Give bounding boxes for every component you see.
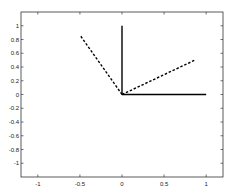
x-tick-label: 0.5 xyxy=(160,181,169,187)
chart: -1-0.500.5110.80.60.40.20-0.2-0.4-0.6-0.… xyxy=(0,0,232,191)
y-tick-label: -0.4 xyxy=(9,119,20,125)
y-tick-label: -0.2 xyxy=(9,105,20,111)
y-tick-label: -1 xyxy=(14,160,20,166)
x-tick-label: -0.5 xyxy=(75,181,86,187)
y-tick-label: 0.6 xyxy=(11,50,20,56)
y-tick-label: 0.4 xyxy=(11,64,20,70)
y-tick-label: -0.8 xyxy=(9,147,20,153)
y-tick-label: 0.2 xyxy=(11,78,20,84)
x-tick-label: 0 xyxy=(120,181,124,187)
y-tick-label: 1 xyxy=(16,23,20,29)
y-tick-label: 0 xyxy=(16,92,20,98)
y-tick-label: -0.6 xyxy=(9,133,20,139)
x-tick-label: -1 xyxy=(35,181,41,187)
y-tick-label: 0.8 xyxy=(11,37,20,43)
x-tick-label: 1 xyxy=(204,181,208,187)
